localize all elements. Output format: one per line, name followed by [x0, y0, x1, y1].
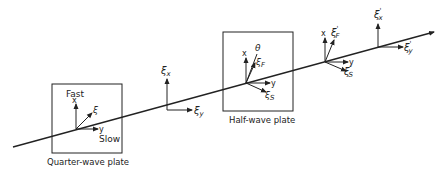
xi-label: ξ	[92, 105, 99, 115]
xi-f-prime-arrow	[325, 40, 334, 62]
half-wave-plate-label: Half-wave plate	[229, 115, 295, 125]
diagram-canvas: Fast x ξ y Slow Quarter-wave plate ξx ξy…	[0, 0, 446, 175]
xi-f-arrow	[246, 63, 255, 83]
y-label: y	[271, 79, 276, 88]
xi-y-prime-label: ξ'y	[403, 40, 414, 55]
free-frame-2: x ξ'F y ξ'S	[321, 25, 354, 79]
quarter-wave-plate: Fast x ξ y Slow Quarter-wave plate	[47, 84, 129, 167]
x-label: x	[242, 49, 247, 58]
half-wave-plate: x θ ξF y ξS Half-wave plate	[223, 32, 295, 125]
xi-f-prime-label: ξ'F	[330, 25, 341, 40]
y-label: y	[99, 125, 104, 134]
xi-f-label: ξF	[255, 57, 266, 69]
quarter-wave-plate-label: Quarter-wave plate	[47, 157, 129, 167]
xi-x-label: ξx	[160, 65, 172, 78]
x-label: x	[321, 29, 326, 38]
xi-x-prime-label: ξ'x	[373, 7, 384, 22]
xi-s-arrow	[246, 83, 266, 92]
polarization-diagram: Fast x ξ y Slow Quarter-wave plate ξx ξy…	[0, 0, 446, 175]
free-frame-1: ξx ξy	[160, 65, 205, 118]
xi-s-prime-arrow	[325, 62, 346, 71]
free-frame-3: ξ'x ξ'y	[373, 7, 414, 55]
x-label: x	[72, 96, 77, 105]
theta-label: θ	[255, 43, 261, 53]
xi-s-label: ξS	[264, 90, 275, 102]
slow-label: Slow	[99, 134, 120, 144]
xi-y-label: ξy	[193, 105, 205, 118]
